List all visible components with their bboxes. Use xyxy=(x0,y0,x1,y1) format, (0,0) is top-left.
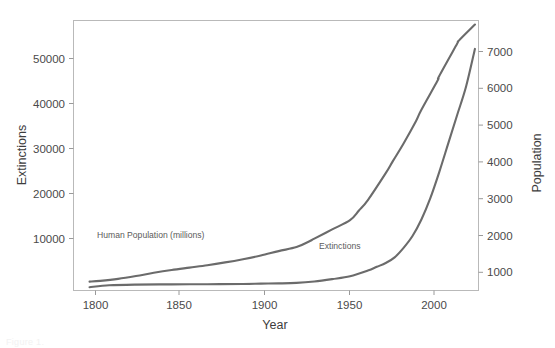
plot-frame xyxy=(74,21,479,291)
left-axis-ticks xyxy=(69,59,74,239)
left-tick-label: 20000 xyxy=(33,188,65,200)
right-tick-label: 2000 xyxy=(487,230,513,242)
x-tick-label: 2000 xyxy=(421,299,447,311)
left-tick-label: 10000 xyxy=(33,233,65,245)
cropped-caption: Figure 1. xyxy=(6,337,44,347)
right-tick-label: 7000 xyxy=(487,46,513,58)
x-tick-label: 1900 xyxy=(252,299,278,311)
right-axis-ticks xyxy=(479,52,484,273)
x-axis-tick-labels: 1800 1850 1900 1950 2000 xyxy=(83,299,447,311)
right-axis-title: Population xyxy=(530,133,544,192)
x-axis-title: Year xyxy=(262,318,287,332)
extinctions-series-label: Extinctions xyxy=(319,241,361,251)
right-axis-tick-labels: 7000 6000 5000 4000 3000 2000 1000 xyxy=(487,46,513,279)
population-series-label: Human Population (millions) xyxy=(97,230,205,240)
left-tick-label: 40000 xyxy=(33,98,65,110)
left-tick-label: 30000 xyxy=(33,143,65,155)
right-tick-label: 3000 xyxy=(487,193,513,205)
right-tick-label: 6000 xyxy=(487,82,513,94)
left-tick-label: 50000 xyxy=(33,53,65,65)
left-axis-title: Extinctions xyxy=(15,125,29,185)
x-tick-label: 1850 xyxy=(166,299,192,311)
x-axis-ticks xyxy=(96,291,435,296)
right-tick-label: 5000 xyxy=(487,119,513,131)
dual-axis-line-chart: 50000 40000 30000 20000 10000 Extinction… xyxy=(0,0,555,348)
figure-container: 50000 40000 30000 20000 10000 Extinction… xyxy=(0,0,555,348)
right-tick-label: 4000 xyxy=(487,156,513,168)
right-tick-label: 1000 xyxy=(487,266,513,278)
left-axis-tick-labels: 50000 40000 30000 20000 10000 xyxy=(33,53,65,245)
x-tick-label: 1800 xyxy=(83,299,109,311)
x-tick-label: 1950 xyxy=(337,299,363,311)
